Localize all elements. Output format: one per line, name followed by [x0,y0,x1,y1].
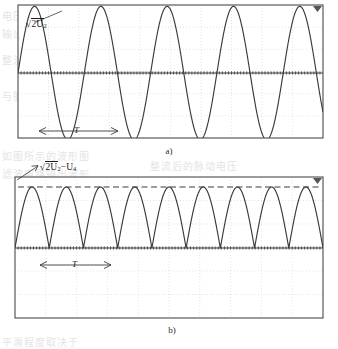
panel-a-amplitude-label-text: 2U [31,18,44,29]
panel-b-amplitude-label-sub2: 4 [73,165,76,172]
panel-a-amplitude-label: √2U2 [25,20,47,30]
panel-b-period-label: T [72,259,77,269]
panel-b-minus-sign: −U [61,162,73,172]
panel-a-caption: a) [149,146,189,156]
sqrt-radical-icon: √ [39,162,45,172]
sqrt-radical-icon: √ [25,19,31,29]
panel-b-amplitude-label: √2U2−U4 [39,163,76,173]
panel-a-period-label: T [74,125,79,135]
panel-a-plot [0,0,338,160]
panel-a-amplitude-label-sub: 2 [44,22,47,29]
panel-b-amplitude-label-text: 2U [45,161,58,172]
panel-b-caption: b) [152,325,192,335]
panel-b-plot [0,160,338,344]
